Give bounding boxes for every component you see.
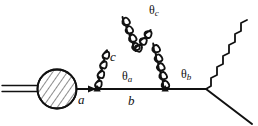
photon-line (206, 20, 247, 89)
feynman-diagram-figure: a b c θa θb θc (0, 0, 258, 126)
gluon-line-c (95, 50, 109, 89)
feynman-diagram-canvas (0, 0, 258, 126)
gluon-line-b (152, 44, 169, 89)
final-state-line (206, 89, 252, 124)
gluon-line-c2 (135, 30, 152, 52)
incoming-double-line (2, 86, 40, 92)
hadron-blob (36, 68, 80, 112)
